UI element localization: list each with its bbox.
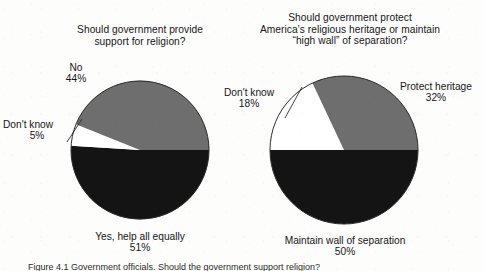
left-label-yes-pct: 51% xyxy=(56,242,224,253)
figure-caption: Figure 4.1 Government officials. Should … xyxy=(28,262,458,271)
right-label-protect-heritage-pct: 32% xyxy=(400,92,472,103)
left-label-yes-text: Yes, help all equally xyxy=(95,231,185,242)
right-dont-know-leader-line xyxy=(284,86,308,120)
right-label-maintain: Maintain wall of separation 50% xyxy=(266,235,424,258)
right-label-maintain-pct: 50% xyxy=(266,246,424,257)
right-label-maintain-text: Maintain wall of separation xyxy=(285,235,406,246)
right-label-protect-heritage: Protect heritage 32% xyxy=(400,81,472,104)
right-chart-title: Should government protect America’s reli… xyxy=(252,12,448,47)
left-label-no-pct: 44% xyxy=(56,73,96,84)
right-label-dont-know-pct: 18% xyxy=(224,98,274,109)
right-slice-maintain xyxy=(270,150,418,224)
left-chart-title-line1: Should government provide xyxy=(77,24,203,35)
left-slice-yes xyxy=(71,146,209,220)
left-chart-title-line2: support for religion? xyxy=(94,36,185,47)
left-label-no-text: No xyxy=(69,62,82,73)
left-dont-know-leader-line xyxy=(66,118,88,144)
right-chart-title-line2: America’s religious heritage or maintain xyxy=(260,24,440,35)
left-pie-svg xyxy=(70,80,210,220)
left-pie-chart xyxy=(70,80,210,220)
right-chart-title-line1: Should government protect xyxy=(288,12,412,23)
right-label-dont-know-text: Don't know xyxy=(224,87,274,98)
right-label-dont-know: Don't know 18% xyxy=(224,87,274,110)
left-chart-title: Should government provide support for re… xyxy=(52,24,228,47)
right-label-protect-heritage-text: Protect heritage xyxy=(400,81,472,92)
left-label-no: No 44% xyxy=(56,62,96,85)
left-label-yes: Yes, help all equally 51% xyxy=(56,231,224,254)
left-label-dont-know: Don't know 5% xyxy=(3,119,71,142)
left-label-dont-know-pct: 5% xyxy=(3,130,71,141)
left-label-dont-know-text: Don't know xyxy=(3,119,53,130)
right-chart-title-line3: “high wall” of separation? xyxy=(292,35,407,46)
figure-two-pie-charts: Should government provide support for re… xyxy=(0,0,484,271)
